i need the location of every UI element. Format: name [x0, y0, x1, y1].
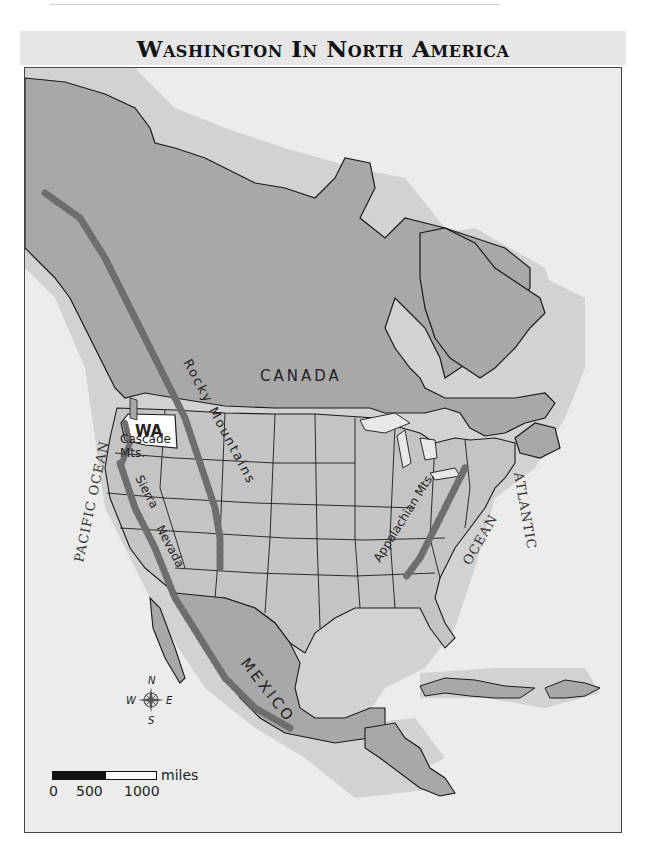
compass-s: S [148, 715, 155, 726]
cascade-label-line1: Cascade [120, 432, 171, 446]
scale-segment-white [106, 771, 157, 780]
scale-tick-500: 500 [76, 783, 103, 799]
map-title: Washington In North America [137, 35, 510, 62]
north-america-map: CANADA WA Cascade Mts. Rocky Mountains S… [25, 68, 622, 833]
compass-rose-icon: N S E W [126, 675, 173, 726]
scale-unit: miles [161, 767, 198, 783]
canada-label: CANADA [260, 367, 342, 385]
scale-segment-black [52, 771, 106, 780]
cascade-label-line2: Mts. [120, 446, 145, 460]
atlantic-label: ATLANTIC [511, 470, 540, 551]
compass-e: E [166, 695, 173, 706]
scale-bar: miles 0 500 1000 [52, 767, 198, 801]
map-frame: CANADA WA Cascade Mts. Rocky Mountains S… [24, 67, 622, 833]
compass-w: W [126, 695, 137, 706]
top-rule [50, 4, 500, 5]
compass-n: N [148, 675, 156, 686]
scale-tick-0: 0 [49, 783, 58, 799]
scale-tick-1000: 1000 [124, 783, 160, 799]
title-bar: Washington In North America [20, 31, 626, 65]
